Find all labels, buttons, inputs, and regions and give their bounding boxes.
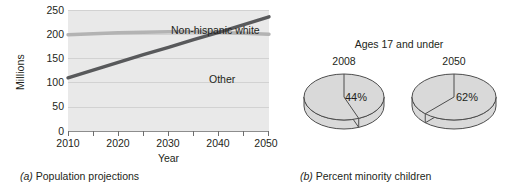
figure-container: Millions 250 200 150 100 50 0 Non-hispan… <box>0 0 520 194</box>
x-tick-2015 <box>93 131 94 136</box>
x-axis-title: Year <box>68 152 269 164</box>
caption-panel-b-text: Percent minority children <box>316 170 432 182</box>
x-tick-label-2050: 2050 <box>254 137 277 149</box>
x-tick-2035 <box>193 131 194 136</box>
caption-panel-a-text: Population projections <box>36 170 139 182</box>
x-tick-2025 <box>143 131 144 136</box>
series-label-other: Other <box>209 73 235 85</box>
x-tick-label-2030: 2030 <box>156 137 179 149</box>
y-tick-label-150: 150 <box>46 53 64 63</box>
x-tick-label-2040: 2040 <box>206 137 229 149</box>
y-tick-label-0: 0 <box>58 126 64 136</box>
caption-panel-a-marker: (a) <box>20 170 33 182</box>
pie-percent-label-2050: 62% <box>456 91 478 103</box>
y-axis-title: Millions <box>14 42 28 102</box>
x-tick-2010 <box>68 131 69 136</box>
y-tick-label-250: 250 <box>46 5 64 15</box>
pie-chart-2050 <box>412 74 496 129</box>
y-tick-label-100: 100 <box>46 77 64 87</box>
plot-area: Non-hispanic white Other <box>68 10 269 131</box>
caption-panel-a: (a) Population projections <box>20 170 139 182</box>
y-tick-label-50: 50 <box>52 101 64 111</box>
x-tick-2050 <box>268 131 269 136</box>
caption-panel-b-marker: (b) <box>300 170 313 182</box>
x-tick-2040 <box>218 131 219 136</box>
x-tick-2030 <box>168 131 169 136</box>
x-tick-2020 <box>118 131 119 136</box>
caption-panel-b: (b) Percent minority children <box>300 170 431 182</box>
panel-a-population-projections: Millions 250 200 150 100 50 0 Non-hispan… <box>0 0 278 194</box>
x-tick-label-2010: 2010 <box>56 137 79 149</box>
panel-b-percent-minority-children: Ages 17 and under 2008 2050 44% 62% (b) … <box>278 0 520 194</box>
x-tick-2045 <box>243 131 244 136</box>
series-label-non-hispanic-white: Non-hispanic white <box>171 24 260 36</box>
pie-charts-svg <box>278 55 520 175</box>
y-axis-tick-labels: 250 200 150 100 50 0 <box>28 0 64 140</box>
x-axis-tick-labels: 2010 2020 2030 2040 2050 <box>0 137 278 151</box>
pies-supertitle: Ages 17 and under <box>278 38 520 50</box>
pie-percent-label-2008: 44% <box>345 91 367 103</box>
x-tick-label-2020: 2020 <box>106 137 129 149</box>
y-tick-label-200: 200 <box>46 29 64 39</box>
